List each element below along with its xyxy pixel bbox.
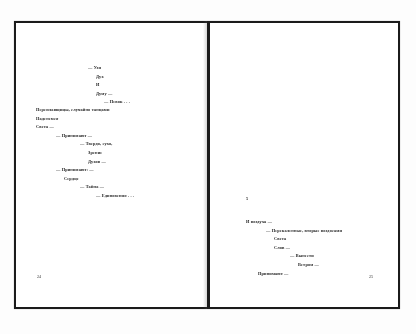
verse-line: — Принимают: — <box>56 166 134 175</box>
left-page: — Узи Дух И Думу — — Певок . . . Перепла… <box>14 21 207 309</box>
verse-line: И воздуха — <box>246 218 342 227</box>
right-page: 5 И воздуха — — Перекаленные, вторые воз… <box>210 21 400 309</box>
verse-line: Света — <box>36 123 134 132</box>
verse-line: — Вынести <box>290 252 342 261</box>
page-number-left: 24 <box>37 274 41 279</box>
verse-line: — Единовения . . . <box>96 192 134 201</box>
book-spread-scan: — Узи Дух И Думу — — Певок . . . Перепла… <box>0 0 416 334</box>
verse-line: Дух <box>96 73 130 82</box>
verse-line: Зрение <box>88 149 134 158</box>
verse-line: Света <box>274 235 342 244</box>
verse-line: Наденемся <box>36 115 134 124</box>
left-page-body: — Узи Дух И Думу — — Певок . . . Перепла… <box>14 21 207 309</box>
verse-line: — Твердо, сухо, <box>80 140 134 149</box>
verse-line: — Тайна — <box>80 183 134 192</box>
page-number-right: 25 <box>369 274 373 279</box>
verse-line: Ветром — <box>298 261 342 270</box>
verse-line: Духов — <box>88 158 134 167</box>
left-page-stanza-middle: Переплавщицы, случайно танцами Наденемся… <box>36 106 134 201</box>
verse-line: Принимают — <box>258 270 342 279</box>
verse-line: Переплавщицы, случайно танцами <box>36 106 134 115</box>
right-page-stanza-lower: И воздуха — — Перекаленные, вторые воздо… <box>246 218 342 278</box>
verse-line: — Перекаленные, вторые воздосами <box>266 227 342 236</box>
section-number: 5 <box>246 196 248 201</box>
verse-line: — Узи <box>88 64 130 73</box>
right-page-body: 5 И воздуха — — Перекаленные, вторые воз… <box>210 21 400 309</box>
verse-line: Слов — <box>274 244 342 253</box>
verse-line: Думу — <box>96 90 130 99</box>
verse-line: Сердце <box>64 175 134 184</box>
left-page-stanza-upper: — Узи Дух И Думу — — Певок . . . <box>36 64 130 107</box>
verse-line: И <box>96 81 130 90</box>
verse-line: — Принимают — <box>56 132 134 141</box>
